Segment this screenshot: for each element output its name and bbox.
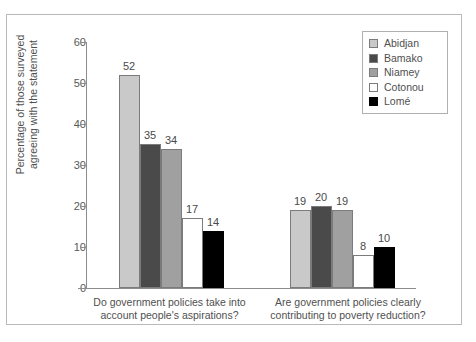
group-label-1-line1: Do government policies take into xyxy=(82,296,257,309)
legend-swatch-bamako xyxy=(369,54,378,63)
chart-figure: 60 50 40 30 20 10 0 Percentage of those … xyxy=(0,0,476,342)
y-axis-title: Percentage of those surveyed agreeing wi… xyxy=(14,5,39,205)
legend-item-niamey[interactable]: Niamey xyxy=(369,66,441,79)
x-axis-line xyxy=(78,288,416,289)
bar-cotonou-group2[interactable] xyxy=(353,255,374,288)
group-label-1-line2: account people's aspirations? xyxy=(82,309,257,322)
legend-item-lome[interactable]: Lomé xyxy=(369,95,441,108)
y-tick-mark-0 xyxy=(80,288,86,289)
bar-abidjan-group2[interactable] xyxy=(290,210,311,288)
bar-value-lome-group2: 10 xyxy=(369,233,399,244)
legend-swatch-niamey xyxy=(369,68,378,77)
legend-label-cotonou: Cotonou xyxy=(384,82,424,93)
legend-item-bamako[interactable]: Bamako xyxy=(369,52,441,65)
legend-label-bamako: Bamako xyxy=(384,53,423,64)
bar-lome-group1[interactable] xyxy=(203,231,224,288)
group-label-2: Are government policies clearly contribu… xyxy=(258,296,438,322)
y-axis-title-line1: Percentage of those surveyed xyxy=(14,5,27,205)
bar-cotonou-group1[interactable] xyxy=(182,218,203,288)
legend-item-cotonou[interactable]: Cotonou xyxy=(369,81,441,94)
group-label-1: Do government policies take into account… xyxy=(82,296,257,322)
legend-label-abidjan: Abidjan xyxy=(384,38,419,49)
group-label-2-line1: Are government policies clearly xyxy=(258,296,438,309)
legend-label-niamey: Niamey xyxy=(384,67,420,78)
bar-bamako-group2[interactable] xyxy=(311,206,332,288)
legend-swatch-abidjan xyxy=(369,39,378,48)
bar-abidjan-group1[interactable] xyxy=(119,75,140,288)
bar-niamey-group1[interactable] xyxy=(161,149,182,288)
bar-value-abidjan-group1: 52 xyxy=(114,61,144,72)
y-axis-title-line2: agreeing with the statement xyxy=(26,5,39,205)
legend-item-abidjan[interactable]: Abidjan xyxy=(369,37,441,50)
bar-lome-group2[interactable] xyxy=(374,247,395,288)
legend-label-lome: Lomé xyxy=(384,96,410,107)
bar-bamako-group1[interactable] xyxy=(140,144,161,288)
bar-value-niamey-group1: 34 xyxy=(156,135,186,146)
group-label-2-line2: contributing to poverty reduction? xyxy=(258,309,438,322)
chart-legend: Abidjan Bamako Niamey Cotonou Lomé xyxy=(362,31,448,114)
bar-value-cotonou-group1: 17 xyxy=(177,204,207,215)
legend-swatch-lome xyxy=(369,97,378,106)
bar-value-niamey-group2: 19 xyxy=(327,196,357,207)
legend-swatch-cotonou xyxy=(369,83,378,92)
bar-value-lome-group1: 14 xyxy=(198,217,228,228)
